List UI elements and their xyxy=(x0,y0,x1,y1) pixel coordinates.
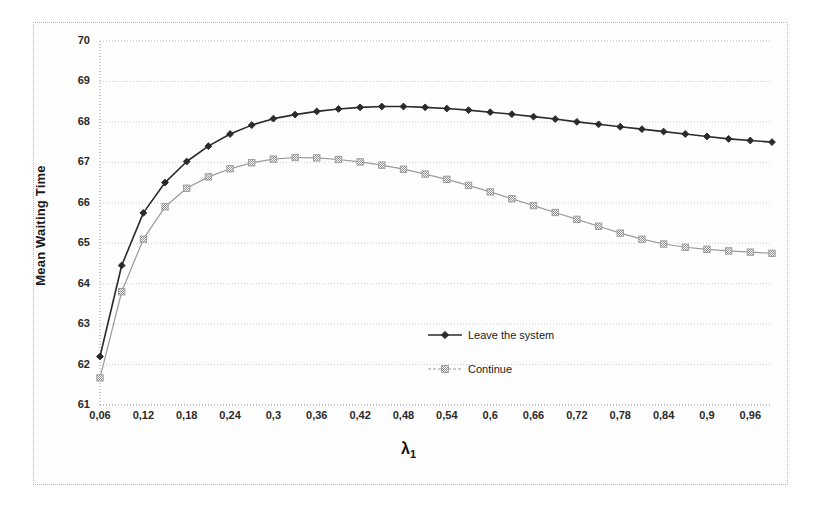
gridlines xyxy=(100,41,772,405)
y-axis-title: Mean Waiting Time xyxy=(33,126,48,326)
y-tick-label: 62 xyxy=(54,358,90,370)
y-tick-label: 64 xyxy=(54,277,90,289)
y-tick-label: 69 xyxy=(54,74,90,86)
y-tick-label: 65 xyxy=(54,236,90,248)
plot-area-wrapper: Mean Waiting Time λ1 Leave the systemCon… xyxy=(0,0,817,507)
chart-canvas: Leave the systemContinue xyxy=(0,0,817,507)
y-tick-label: 68 xyxy=(54,115,90,127)
y-tick-label: 67 xyxy=(54,155,90,167)
series-1 xyxy=(97,103,776,360)
y-tick-label: 63 xyxy=(54,317,90,329)
x-axis-title-symbol: λ xyxy=(401,440,410,457)
y-tick-label: 70 xyxy=(54,34,90,46)
legend-label: Leave the system xyxy=(468,329,554,341)
chart-figure: Mean Waiting Time λ1 Leave the systemCon… xyxy=(0,0,817,507)
chart-legend: Leave the systemContinue xyxy=(428,329,554,375)
x-axis-title-subscript: 1 xyxy=(410,448,416,460)
axis-lines xyxy=(100,41,772,405)
y-tick-label: 66 xyxy=(54,196,90,208)
x-tick-label: 0,96 xyxy=(723,409,777,421)
legend-item-2: Continue xyxy=(428,363,512,375)
x-axis-title: λ1 xyxy=(0,440,817,460)
data-series xyxy=(97,103,776,381)
legend-label: Continue xyxy=(468,363,512,375)
legend-item-1: Leave the system xyxy=(428,329,554,341)
series-2 xyxy=(97,154,775,381)
